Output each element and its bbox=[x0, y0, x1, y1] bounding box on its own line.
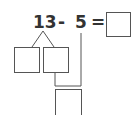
equals-sign: = bbox=[91, 14, 105, 31]
bottom-result-box[interactable] bbox=[55, 89, 82, 115]
minus-operator: - bbox=[58, 14, 65, 31]
answer-box[interactable] bbox=[106, 12, 131, 37]
right-decomposition-box[interactable] bbox=[43, 47, 69, 73]
left-decomposition-box[interactable] bbox=[14, 47, 40, 73]
minuend: 13 bbox=[33, 14, 57, 31]
subtrahend: 5 bbox=[75, 14, 87, 31]
